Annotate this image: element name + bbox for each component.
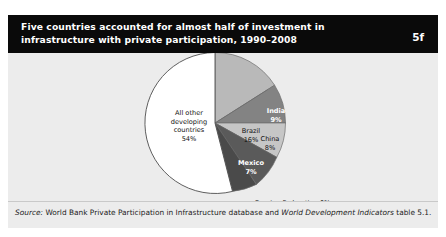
source-publication-title: World Development Indicators [281,208,394,217]
chart-area: Brazil 16% India 9% China 8% Mexico 7% R… [8,53,438,213]
pie-label-brazil-name: Brazil [242,127,261,135]
pie-chart-svg: Brazil 16% India 9% China 8% Mexico 7% R… [8,53,438,213]
source-text-a: World Bank Private Participation in Infr… [43,208,281,217]
source-text-b: table 5.1. [394,208,432,217]
pie-label-other-line3: countries [174,126,205,134]
source-note: Source: World Bank Private Participation… [15,208,431,217]
figure-header: Five countries accounted for almost half… [8,15,438,53]
figure-footer: Source: World Bank Private Participation… [8,201,438,228]
source-prefix: Source: [15,208,43,217]
pie-chart: Brazil 16% India 9% China 8% Mexico 7% R… [8,53,438,213]
pie-label-mexico-value: 7% [245,168,257,176]
pie-label-brazil-value: 16% [244,136,259,144]
pie-label-other-line1: All other [175,109,203,117]
pie-label-india-value: 9% [270,116,282,124]
figure-number-badge: 5f [412,31,424,43]
pie-label-india-name: India [267,107,286,115]
figure-panel: Five countries accounted for almost half… [8,15,438,228]
pie-label-other-line2: developing [171,118,207,126]
figure-title: Five countries accounted for almost half… [21,21,371,46]
pie-label-china-name: China [261,135,280,143]
pie-label-china-value: 8% [265,144,275,152]
pie-label-other-value: 54% [182,135,197,143]
pie-label-mexico-name: Mexico [238,159,264,167]
